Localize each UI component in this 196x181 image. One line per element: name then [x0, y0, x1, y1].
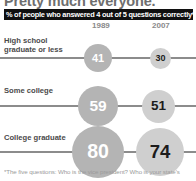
bubble-2007: 30: [150, 48, 171, 69]
page-title: Pretty much everyone.: [4, 0, 194, 9]
row-label-line2: graduate or less: [4, 45, 63, 54]
infographic-root: Pretty much everyone. % of people who an…: [0, 0, 196, 181]
column-header-2007: 2007: [152, 21, 170, 30]
subtitle-banner-label: % of people who answered 4 out of 5 ques…: [6, 10, 193, 19]
table-row: Some college 59 51: [0, 78, 196, 118]
table-row: College graduate 80 74: [0, 118, 196, 168]
footnote: *The five questions: Who is the vice pre…: [4, 168, 196, 175]
subtitle-banner: % of people who answered 4 out of 5 ques…: [4, 9, 193, 20]
bubble-1989: 41: [84, 44, 112, 72]
row-label-line1: High school: [4, 36, 47, 45]
row-label: Some college: [4, 86, 53, 95]
row-label: High school graduate or less: [4, 36, 63, 54]
row-label-line1: College graduate: [4, 133, 66, 142]
column-header-1989: 1989: [92, 21, 110, 30]
table-row: High school graduate or less 41 30: [0, 36, 196, 70]
row-label-line1: Some college: [4, 86, 53, 95]
row-label: College graduate: [4, 133, 66, 142]
